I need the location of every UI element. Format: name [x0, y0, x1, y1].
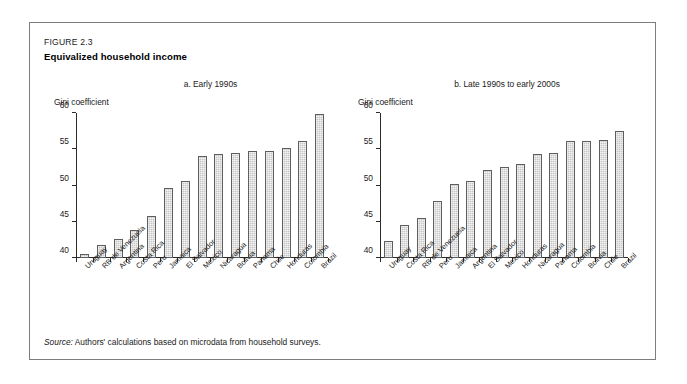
x-axis-category-label: Brazil: [619, 264, 625, 270]
x-axis-category-label: Mexico: [201, 264, 207, 270]
x-axis-category-label: Jamaica: [453, 264, 459, 270]
panel-a-bar-group: [76, 113, 328, 258]
x-axis-category-label: Brazil: [319, 264, 325, 270]
x-axis-category-label: Nicaragua: [536, 264, 542, 270]
y-axis-tick-label: 55: [364, 137, 373, 145]
bar: [80, 254, 89, 258]
x-axis-category-label: Costa Rica: [134, 264, 140, 270]
x-axis-category-label: Peru: [437, 264, 443, 270]
bar: [265, 151, 274, 258]
x-axis-category-label: Honduras: [285, 264, 291, 270]
y-axis-tick-label: 45: [60, 210, 69, 218]
bar: [582, 141, 591, 258]
y-axis-tick: [72, 112, 76, 113]
x-axis-category-label: El Salvador: [486, 264, 492, 270]
x-axis-category-label: Chile: [602, 264, 608, 270]
x-axis-category-label: Panama: [553, 264, 559, 270]
x-axis-category-label: Argentina: [117, 264, 123, 270]
y-axis-tick: [72, 148, 76, 149]
panel-a-title: a. Early 1990s: [40, 79, 345, 89]
bar: [248, 151, 257, 258]
x-axis-category-label: Mexico: [503, 264, 509, 270]
y-axis-tick: [376, 112, 380, 113]
chart-panel-a: a. Early 1990s Gini coefficient 40455055…: [40, 79, 345, 319]
y-axis-tick-label: 40: [364, 246, 373, 254]
x-axis-category-label: Uruguay: [83, 264, 89, 270]
y-axis-tick-label: 55: [60, 137, 69, 145]
x-axis-category-label: Honduras: [520, 264, 526, 270]
bar: [164, 188, 173, 258]
source-label: Source:: [44, 337, 73, 347]
x-axis-tick: [380, 258, 381, 262]
bar: [599, 140, 608, 258]
y-axis-tick-label: 45: [364, 210, 373, 218]
chart-panel-b: b. Late 1990s to early 2000s Gini coeffi…: [350, 79, 650, 319]
panel-a-plot-area: 4045505560: [76, 113, 328, 258]
x-axis-category-label: Nicaragua: [218, 264, 224, 270]
bar: [450, 184, 459, 258]
figure-title: Equivalized household income: [44, 51, 187, 62]
x-axis-category-label: RB de Venezuela: [100, 264, 106, 270]
x-axis-category-label: Uruguay: [387, 264, 393, 270]
source-text: Authors' calculations based on microdata…: [75, 337, 321, 347]
y-axis-tick: [376, 185, 380, 186]
y-axis-tick-label: 40: [60, 246, 69, 254]
y-axis-tick-label: 60: [60, 101, 69, 109]
bar: [298, 141, 307, 258]
y-axis-tick-label: 60: [364, 101, 373, 109]
x-axis-category-label: Jamaica: [167, 264, 173, 270]
x-axis-category-label: Panama: [251, 264, 257, 270]
x-axis-category-label: Chile: [268, 264, 274, 270]
x-axis-category-label: El Salvador: [184, 264, 190, 270]
y-axis-tick: [376, 148, 380, 149]
panel-b-bar-group: [380, 113, 628, 258]
x-axis-category-label: Peru: [151, 264, 157, 270]
x-axis-category-label: Argentina: [470, 264, 476, 270]
bar: [282, 148, 291, 258]
source-note: Source: Authors' calculations based on m…: [44, 337, 321, 347]
x-axis-category-label: Bolivia: [586, 264, 592, 270]
bar: [384, 241, 393, 258]
figure-number: FIGURE 2.3: [44, 37, 93, 47]
x-axis-category-label: Costa Rica: [404, 264, 410, 270]
x-axis-category-label: RB de Venezuela: [420, 264, 426, 270]
x-axis-category-label: Colombia: [302, 264, 308, 270]
panel-b-plot-area: 4045505560: [380, 113, 628, 258]
y-axis-tick-label: 50: [60, 174, 69, 182]
y-axis-tick: [376, 221, 380, 222]
figure-panel: FIGURE 2.3 Equivalized household income …: [29, 22, 656, 360]
bar: [615, 131, 624, 258]
y-axis-tick: [72, 185, 76, 186]
y-axis-tick-label: 50: [364, 174, 373, 182]
bar: [315, 114, 324, 258]
x-axis-category-label: Bolivia: [235, 264, 241, 270]
panel-b-title: b. Late 1990s to early 2000s: [350, 79, 650, 89]
y-axis-tick: [72, 221, 76, 222]
x-axis-tick: [76, 258, 77, 262]
bar: [566, 141, 575, 258]
x-axis-category-label: Colombia: [569, 264, 575, 270]
